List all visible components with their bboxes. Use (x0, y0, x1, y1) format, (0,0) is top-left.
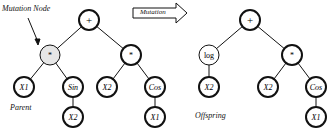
parent-right-label: * (129, 51, 133, 60)
offspring-tree: + log * X2 X2 Cos X1 (199, 10, 326, 127)
diagram-canvas: + * * X1 Sin X2 X2 Cos X1 + log * X2 X2 … (0, 0, 334, 137)
offspring-cos-child-label: X1 (311, 113, 321, 122)
offspring-cos-label: Cos (310, 83, 322, 92)
offspring-log-label: log (204, 51, 214, 60)
parent-sin-label: Sin (68, 83, 78, 92)
parent-cos-child-label: X1 (150, 113, 160, 122)
offspring-root-label: + (247, 14, 253, 26)
parent-x2-label: X2 (102, 83, 112, 92)
offspring-caption: Offspring (195, 111, 226, 120)
parent-cos-label: Cos (149, 83, 161, 92)
parent-root-label: + (86, 14, 92, 26)
offspring-x2-label: X2 (263, 83, 273, 92)
mutation-node-caption: Mutation Node (2, 4, 50, 13)
parent-caption: Parent (10, 103, 31, 112)
offspring-log-child-label: X2 (204, 83, 214, 92)
offspring-right-label: * (290, 51, 294, 60)
parent-tree: + * * X1 Sin X2 X2 Cos X1 (14, 10, 165, 127)
mutation-node-label: * (48, 51, 52, 60)
parent-x1-label: X1 (19, 83, 29, 92)
parent-sin-child-label: X2 (68, 113, 78, 122)
mutation-arrow-label: Mutation (140, 8, 166, 16)
